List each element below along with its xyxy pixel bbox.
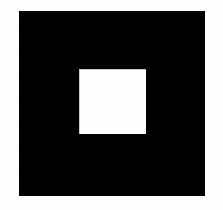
outer-black-square xyxy=(19,11,205,196)
figure-canvas xyxy=(0,0,223,210)
inner-white-square xyxy=(79,69,146,134)
